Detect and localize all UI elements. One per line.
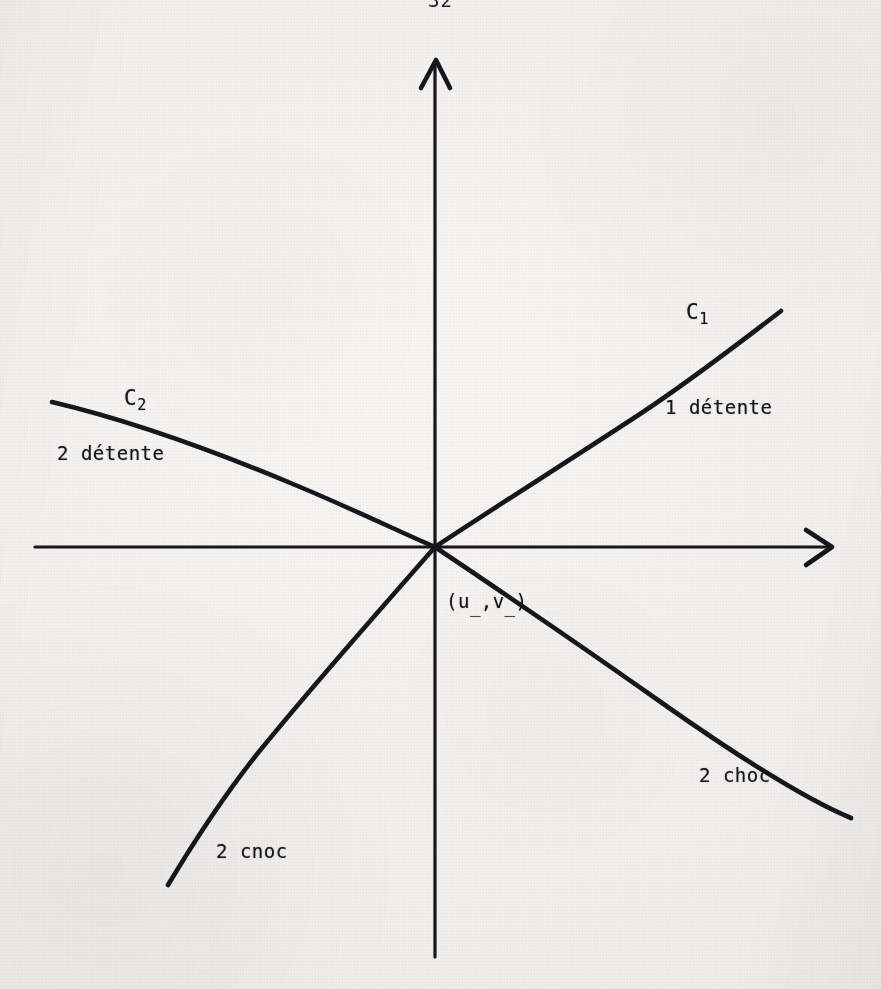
curve-c2-detente [52, 402, 435, 547]
curve-c1-detente [435, 311, 781, 547]
curve-c2-cnoc [168, 547, 435, 885]
origin-state-label: (u_,v_) [446, 590, 527, 617]
region-label-2-detente: 2 détente [57, 442, 164, 464]
region-label-2-choc-left: 2 cnoc [216, 840, 288, 862]
scanned-figure-page: 32 C1 C2 1 détente [0, 0, 881, 989]
curve-label-c2: C2 [124, 386, 146, 414]
region-label-1-detente: 1 détente [665, 396, 772, 418]
curve-label-c1: C1 [686, 300, 708, 328]
wave-curves-figure [0, 0, 881, 989]
curve-label-c1-subscript: 1 [699, 310, 708, 328]
state-v-subscript: _ [505, 597, 516, 617]
region-label-2-choc-right: 2 choc [699, 764, 771, 786]
state-u-subscript: _ [470, 597, 481, 617]
curve-label-c2-subscript: 2 [137, 396, 146, 414]
curve-c1-choc [435, 547, 851, 818]
